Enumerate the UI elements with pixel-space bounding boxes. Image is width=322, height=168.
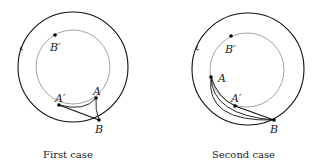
label-a: A bbox=[217, 72, 226, 85]
label-a-prime: A′ bbox=[230, 92, 242, 105]
label-a: A bbox=[92, 85, 101, 98]
label-a-prime: A′ bbox=[54, 92, 66, 105]
point-b-prime bbox=[53, 33, 57, 37]
outer-circle bbox=[192, 13, 304, 125]
first-case-figure: B′ A′ A B First case bbox=[18, 12, 128, 160]
point-a bbox=[209, 75, 213, 79]
diagram: B′ A′ A B First case B′ A′ A B Second ca… bbox=[0, 0, 322, 168]
point-b bbox=[97, 118, 101, 122]
caption-first-case: First case bbox=[43, 149, 93, 160]
point-b bbox=[272, 118, 276, 122]
label-b-prime: B′ bbox=[49, 41, 61, 54]
second-case-figure: B′ A′ A B Second case bbox=[192, 13, 304, 160]
outer-circle bbox=[18, 12, 128, 122]
label-b: B bbox=[94, 123, 103, 136]
point-b-prime bbox=[229, 34, 233, 38]
caption-second-case: Second case bbox=[212, 149, 275, 160]
label-b-prime: B′ bbox=[224, 43, 236, 56]
label-b: B bbox=[269, 123, 278, 136]
segment-a-prime-b bbox=[235, 106, 274, 120]
